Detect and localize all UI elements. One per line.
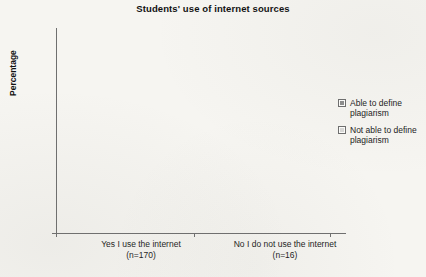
legend-item-not-able[interactable]: Not able to define plagiarism xyxy=(338,125,424,145)
y-axis-line xyxy=(56,28,57,235)
legend-label-not-able: Not able to define plagiarism xyxy=(350,125,424,145)
x-axis-line xyxy=(56,233,346,234)
chart-figure: Students' use of internet sources Percen… xyxy=(0,0,426,277)
x-axis-tick xyxy=(330,233,331,237)
x-axis-tick xyxy=(194,233,195,237)
legend-swatch-icon-not-able xyxy=(338,126,346,134)
legend-label-able: Able to define plagiarism xyxy=(350,98,424,118)
legend-item-able[interactable]: Able to define plagiarism xyxy=(338,98,424,118)
plot-area xyxy=(56,30,330,233)
legend-swatch-icon-able xyxy=(338,99,346,107)
y-axis-title: Percentage xyxy=(8,50,18,96)
x-category-label-1-line2: (n=16) xyxy=(190,250,380,261)
chart-legend: Able to define plagiarism Not able to de… xyxy=(338,98,424,152)
x-category-label-1: No I do not use the internet (n=16) xyxy=(190,239,380,261)
chart-title: Students' use of internet sources xyxy=(0,3,426,14)
x-category-label-1-line1: No I do not use the internet xyxy=(190,239,380,250)
x-axis-tick xyxy=(56,233,57,237)
